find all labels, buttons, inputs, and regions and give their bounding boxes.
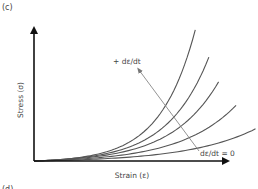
strain-rate-arrow bbox=[139, 70, 199, 151]
annotation-zero-rate: dε/dt = 0 bbox=[200, 149, 235, 158]
annotation-increasing-rate: + dε/dt bbox=[113, 57, 141, 66]
stress-strain-curve-2 bbox=[34, 57, 209, 161]
curves-group bbox=[34, 30, 256, 161]
y-axis-label: Stress (σ) bbox=[16, 82, 25, 118]
stress-strain-diagram: (c) + dε/dt dε/dt = 0 Stress (σ) Strain … bbox=[0, 0, 258, 189]
x-axis-label: Strain (ε) bbox=[115, 171, 150, 180]
panel-label: (c) bbox=[2, 3, 13, 12]
stress-strain-curve-1 bbox=[34, 30, 195, 161]
next-panel-label: (d) bbox=[2, 185, 13, 189]
